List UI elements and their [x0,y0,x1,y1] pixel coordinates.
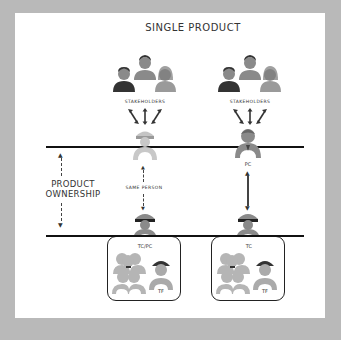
stakeholders-label-left: STAKEHOLDERS [110,99,180,104]
bottom-divider-line [46,235,304,237]
pc-tc-arrow-down-icon: ▼ [245,204,250,211]
same-person-dash-top [143,170,144,182]
stakeholders-group-icon-right [215,52,285,98]
product-champion-figure-icon [234,126,262,160]
top-divider-line [46,146,304,148]
stakeholder-arrows-left-icon [120,108,170,128]
stakeholder-arrows-right-icon [225,108,275,128]
team-members-group-right-icon [215,252,250,294]
diagram-title: SINGLE PRODUCT [0,22,341,33]
tc-label: TC [229,243,269,249]
team-members-group-left-icon [111,252,146,294]
pc-tc-connector-line [247,175,249,206]
ownership-dash-bottom [61,203,62,221]
tf-label-left: TF [149,288,173,294]
captain-figure-faded-icon [131,128,159,160]
same-person-label: SAME PERSON [115,185,173,190]
stakeholders-label-right: STAKEHOLDERS [215,99,285,104]
product-ownership-label: PRODUCT OWNERSHIP [38,179,108,199]
stakeholders-group-icon-left [110,52,180,98]
pc-label: PC [234,161,262,167]
tc-pc-label: TC/PC [125,243,165,249]
ownership-arrow-down-icon: ▼ [58,221,63,228]
ownership-dash-top [61,158,62,176]
tf-label-right: TF [253,288,277,294]
ownership-arrow-up-icon: ▲ [58,151,63,158]
